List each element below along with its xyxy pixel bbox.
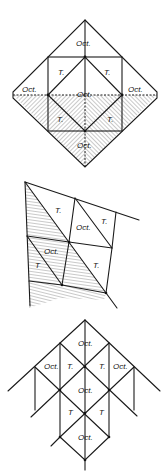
label-oct: Oct. xyxy=(76,223,91,232)
label-tet: T. xyxy=(107,115,113,124)
label-oct: Oct. xyxy=(44,247,59,256)
middle-skewed-layer-figure: T. Oct. T. Oct. T T. xyxy=(25,182,139,308)
label-tet: T. xyxy=(93,261,99,270)
label-tet: T. xyxy=(104,68,110,77)
label-tet: T. xyxy=(99,362,105,371)
label-oct: Oct. xyxy=(22,85,37,94)
label-oct: Oct. xyxy=(78,386,93,395)
label-tet: T. xyxy=(67,362,73,371)
label-oct: Oct. xyxy=(78,433,93,442)
label-oct: Oct. xyxy=(128,85,143,94)
top-octahedron-figure: Oct. T. T. Oct. Oct. Oct. T. T. Oct. xyxy=(13,20,157,167)
label-tet: T. xyxy=(58,68,64,77)
label-oct: Oct. xyxy=(44,362,59,371)
label-tet: T. xyxy=(55,206,61,215)
label-oct: Oct. xyxy=(78,339,93,348)
label-tet: T. xyxy=(57,115,63,124)
label-oct: Oct. xyxy=(113,362,128,371)
structure-diagrams: Oct. T. T. Oct. Oct. Oct. T. T. Oct. xyxy=(0,0,168,475)
label-tet: T. xyxy=(101,217,107,226)
label-tet: T xyxy=(68,408,74,417)
bottom-lattice-figure: Oct. Oct. T. T. Oct. Oct. T T Oct. xyxy=(8,320,160,470)
label-oct: Oct. xyxy=(77,90,92,99)
label-oct: Oct. xyxy=(76,39,91,48)
label-tet: T xyxy=(99,408,105,417)
label-oct: Oct. xyxy=(77,141,92,150)
